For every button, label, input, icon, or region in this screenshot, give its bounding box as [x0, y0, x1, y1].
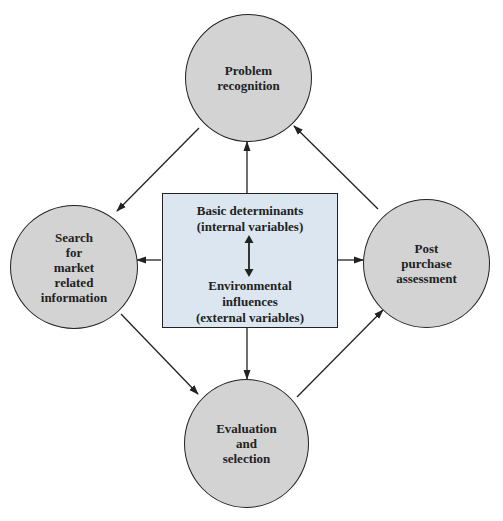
node-evaluation-selection: Evaluation and selection — [184, 379, 309, 508]
node-problem-recognition: Problem recognition — [185, 14, 312, 142]
external-variables-label: Environmental influences (external varia… — [163, 278, 337, 326]
node-search-information: Search for market related information — [10, 205, 138, 329]
node-label: Evaluation and selection — [216, 421, 277, 466]
internal-variables-label: Basic determinants (internal variables) — [163, 203, 337, 235]
node-label: Search for market related information — [41, 230, 107, 305]
central-determinants-box: Basic determinants (internal variables) … — [162, 193, 338, 328]
bidirectional-arrow-icon — [242, 234, 256, 278]
node-label: Post purchase assessment — [396, 241, 457, 286]
node-label: Problem recognition — [217, 63, 280, 93]
node-post-purchase-assessment: Post purchase assessment — [363, 199, 490, 328]
